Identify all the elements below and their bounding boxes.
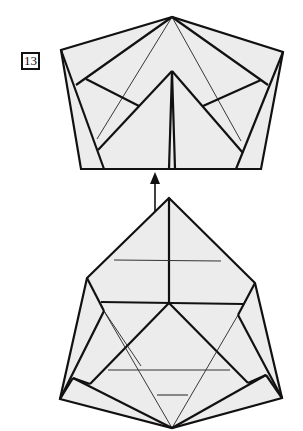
origami-diagram xyxy=(0,0,303,431)
before-figure xyxy=(60,198,282,428)
arrow-head-icon xyxy=(150,172,160,184)
result-figure xyxy=(61,17,283,169)
